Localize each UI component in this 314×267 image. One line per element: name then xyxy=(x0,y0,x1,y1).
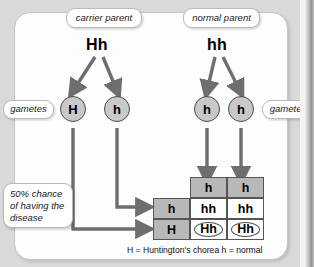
label-gametes-left-text: gametes xyxy=(10,103,46,115)
page-edge-strip xyxy=(305,0,314,267)
label-normal-parent: normal parent xyxy=(183,8,260,28)
punnett-row-header-2: H xyxy=(153,219,190,240)
gamete-circle-h-right-2: h xyxy=(228,96,254,122)
label-probability-annotation: 50% chance of having the disease xyxy=(3,183,73,228)
punnett-cell-r2c1-circled: Hh xyxy=(194,222,223,237)
label-carrier-parent: carrier parent xyxy=(66,8,142,28)
legend-text: H = Huntington's chorea h = normal xyxy=(127,245,262,255)
punnett-col-header-2: h xyxy=(227,177,264,198)
genotype-carrier-parent: Hh xyxy=(86,36,108,54)
label-carrier-parent-text: carrier parent xyxy=(76,12,133,24)
punnett-cell-r1c2: hh xyxy=(227,198,264,219)
label-gametes-left: gametes xyxy=(3,100,54,119)
gamete-circle-h-left: h xyxy=(104,96,130,122)
punnett-cell-r2c1: Hh xyxy=(190,219,227,240)
gamete-circle-H: H xyxy=(60,96,86,122)
label-probability-text: 50% chance of having the disease xyxy=(10,188,64,223)
punnett-cell-r1c1: hh xyxy=(190,198,227,219)
punnett-cell-r2c2-circled: Hh xyxy=(231,222,260,237)
gamete-circle-h-right-1: h xyxy=(194,96,220,122)
label-normal-parent-text: normal parent xyxy=(192,12,251,24)
punnett-row-header-1: h xyxy=(153,198,190,219)
punnett-col-header-1: h xyxy=(190,177,227,198)
diagram-canvas: carrier parent normal parent Hh hh gamet… xyxy=(0,0,314,267)
genotype-normal-parent: hh xyxy=(207,36,227,54)
punnett-cell-r2c2: Hh xyxy=(227,219,264,240)
